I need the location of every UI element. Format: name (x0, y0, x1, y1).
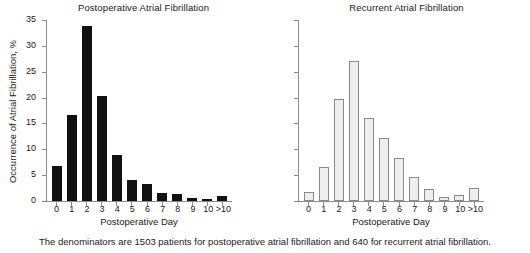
bar-slot (64, 20, 79, 201)
bar-slot (452, 20, 467, 201)
x-tick-label: 8 (422, 204, 437, 216)
y-tick-10 (294, 149, 298, 150)
y-tick-20: 20 (42, 98, 46, 99)
bar-slot (346, 20, 361, 201)
y-tick-0 (294, 201, 298, 202)
chart-panel-recurrent: Recurrent Atrial Fibrillation 0123456789… (265, 0, 530, 232)
bar (172, 194, 182, 201)
x-tick-labels-recurrent: 012345678910>10 (299, 204, 485, 216)
bar-slot (301, 20, 316, 201)
bar (454, 195, 464, 201)
bar-slot (170, 20, 185, 201)
bar-slot (407, 20, 422, 201)
chart-title-postoperative: Postoperative Atrial Fibrillation (0, 2, 265, 13)
y-tick-label-0: 0 (31, 195, 36, 205)
bar-slot (200, 20, 215, 201)
x-axis-title-recurrent: Postoperative Day (298, 216, 484, 227)
bar (379, 138, 389, 201)
y-tick-30 (294, 46, 298, 47)
y-tick-label-20: 20 (26, 92, 36, 102)
chart-title-recurrent: Recurrent Atrial Fibrillation (265, 2, 530, 13)
x-tick-label: >10 (468, 204, 483, 216)
x-tick-label: 3 (346, 204, 361, 216)
bar-slot (155, 20, 170, 201)
x-tick-label: 7 (155, 204, 170, 216)
y-tick-25: 25 (42, 72, 46, 73)
x-tick-label: 0 (49, 204, 64, 216)
bar (127, 180, 137, 201)
x-tick-label: 4 (362, 204, 377, 216)
bar (334, 99, 344, 201)
y-tick-label-25: 25 (26, 66, 36, 76)
bar (304, 192, 314, 201)
x-tick-label: 8 (170, 204, 185, 216)
bar-slot (422, 20, 437, 201)
bar-group-recurrent (299, 20, 484, 201)
y-tick-35: 35 (42, 20, 46, 21)
bar-slot (361, 20, 376, 201)
y-tick-label-15: 15 (26, 117, 36, 127)
bar-slot (49, 20, 64, 201)
bar (319, 167, 329, 201)
bar (82, 26, 92, 201)
bar (439, 197, 449, 201)
x-tick-label: 7 (407, 204, 422, 216)
y-tick-label-30: 30 (26, 40, 36, 50)
bar (202, 199, 212, 201)
y-tick-15: 15 (42, 123, 46, 124)
bar (112, 155, 122, 201)
x-tick-label: 1 (316, 204, 331, 216)
y-tick-label-10: 10 (26, 143, 36, 153)
bar-slot (437, 20, 452, 201)
x-tick-label: 9 (437, 204, 452, 216)
x-tick-label: 4 (110, 204, 125, 216)
bar (364, 118, 374, 201)
y-tick-0: 0 (42, 201, 46, 202)
y-axis-title-text: Occurrence of Atrial Fibrillation, % (7, 39, 18, 182)
bar (469, 188, 479, 201)
bar-slot (185, 20, 200, 201)
y-tick-10: 10 (42, 149, 46, 150)
bar (394, 158, 404, 201)
y-tick-30: 30 (42, 46, 46, 47)
bar-slot (316, 20, 331, 201)
x-tick-label: 2 (331, 204, 346, 216)
bar (67, 115, 77, 201)
y-tick-20 (294, 98, 298, 99)
x-tick-label: 6 (140, 204, 155, 216)
bar (157, 193, 167, 201)
bar-slot (94, 20, 109, 201)
y-tick-15 (294, 123, 298, 124)
x-tick-label: 9 (185, 204, 200, 216)
y-tick-label-35: 35 (26, 14, 36, 24)
x-tick-label: 6 (392, 204, 407, 216)
bar (349, 61, 359, 201)
bar-slot (109, 20, 124, 201)
bar-group-postoperative (47, 20, 232, 201)
x-tick-label: 5 (377, 204, 392, 216)
bar (217, 196, 227, 201)
x-tick-labels-postoperative: 012345678910>10 (47, 204, 233, 216)
figure-caption: The denominators are 1503 patients for p… (0, 236, 530, 247)
y-tick-5: 5 (42, 175, 46, 176)
x-tick-label: 3 (94, 204, 109, 216)
x-tick-label: 2 (79, 204, 94, 216)
figure-container: Postoperative Atrial Fibrillation Occurr… (0, 0, 530, 253)
x-axis-title-postoperative: Postoperative Day (46, 216, 232, 227)
bar (409, 177, 419, 201)
bar-slot (376, 20, 391, 201)
bar (142, 184, 152, 201)
bar-slot (139, 20, 154, 201)
y-axis-title-postoperative: Occurrence of Atrial Fibrillation, % (6, 20, 19, 202)
x-tick-label: 1 (64, 204, 79, 216)
plot-area-postoperative: 05101520253035 (46, 20, 232, 202)
chart-panel-postoperative: Postoperative Atrial Fibrillation Occurr… (0, 0, 265, 232)
bar-slot (391, 20, 406, 201)
y-tick-35 (294, 20, 298, 21)
plot-area-recurrent (298, 20, 484, 202)
bar-slot (467, 20, 482, 201)
x-tick-label: 10 (453, 204, 468, 216)
bar-slot (79, 20, 94, 201)
bar (187, 198, 197, 201)
x-tick-label: 0 (301, 204, 316, 216)
